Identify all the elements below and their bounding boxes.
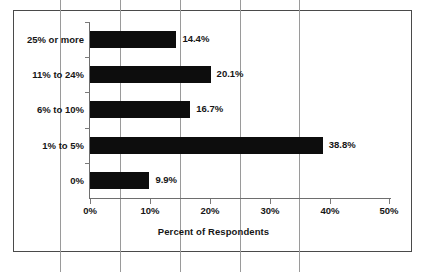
x-tick-40 bbox=[330, 199, 331, 204]
x-tick-0 bbox=[90, 199, 91, 204]
x-axis-title: Percent of Respondents bbox=[0, 226, 427, 237]
category-label-2: 6% to 10% bbox=[0, 101, 84, 118]
chart-figure: 25% or more 11% to 24% 6% to 10% 1% to 5… bbox=[0, 0, 427, 272]
x-tick-30 bbox=[270, 199, 271, 204]
category-label-0: 25% or more bbox=[0, 31, 84, 48]
x-axis-line bbox=[89, 198, 391, 199]
bar-0 bbox=[90, 172, 149, 189]
x-tick-label-0: 0% bbox=[70, 205, 110, 216]
bar-25-or-more bbox=[90, 31, 176, 48]
x-tick-50 bbox=[389, 199, 390, 204]
bar-value-label: 16.7% bbox=[196, 100, 223, 117]
bar-row: 38.8% bbox=[90, 128, 390, 163]
x-tick-label-30: 30% bbox=[250, 205, 290, 216]
category-label-3: 1% to 5% bbox=[0, 137, 84, 154]
category-label-1: 11% to 24% bbox=[0, 66, 84, 83]
x-tick-label-10: 10% bbox=[130, 205, 170, 216]
bar-row: 20.1% bbox=[90, 57, 390, 92]
bar-11-to-24 bbox=[90, 66, 211, 83]
bar-1-to-5 bbox=[90, 137, 323, 154]
x-tick-10 bbox=[150, 199, 151, 204]
bar-row: 14.4% bbox=[90, 22, 390, 57]
x-tick-label-40: 40% bbox=[310, 205, 350, 216]
plot-area: 14.4% 20.1% 16.7% 38.8% 9.9% bbox=[90, 22, 390, 198]
x-tick-label-20: 20% bbox=[190, 205, 230, 216]
bar-value-label: 14.4% bbox=[182, 30, 209, 47]
bar-6-to-10 bbox=[90, 101, 190, 118]
bar-value-label: 20.1% bbox=[217, 65, 244, 82]
bar-value-label: 38.8% bbox=[329, 136, 356, 153]
x-tick-20 bbox=[210, 199, 211, 204]
bar-row: 16.7% bbox=[90, 92, 390, 127]
x-tick-label-50: 50% bbox=[369, 205, 409, 216]
bar-value-label: 9.9% bbox=[155, 171, 177, 188]
category-label-4: 0% bbox=[0, 172, 84, 189]
bar-row: 9.9% bbox=[90, 163, 390, 198]
